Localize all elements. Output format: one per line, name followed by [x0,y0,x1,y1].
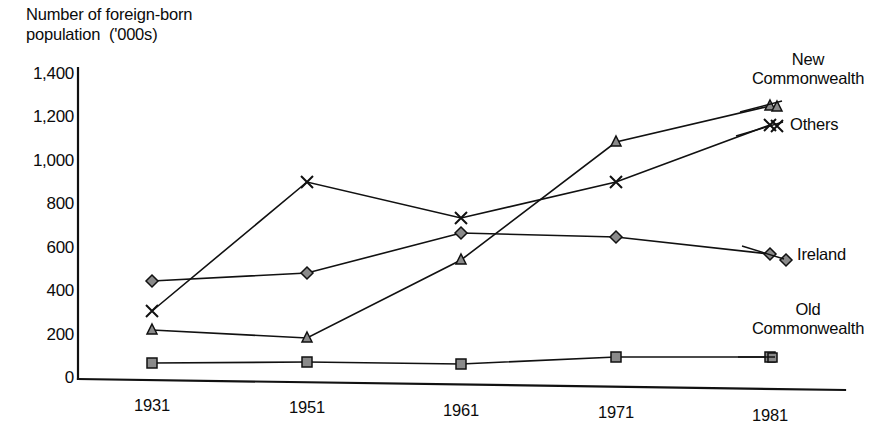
marker-x [771,120,783,132]
marker-diamond [610,231,622,243]
marker-diamond [146,275,158,287]
marker-triangle [147,324,157,334]
chart-container: Number of foreign-bornpopulation ('000s)… [0,0,886,434]
marker-square [611,352,621,362]
marker-diamond [301,267,313,279]
marker-diamond [780,254,792,266]
marker-x [455,212,467,224]
chart-plot-area [0,0,886,434]
marker-square [456,359,466,369]
leader-line-ireland [742,246,784,259]
x-axis-line [78,379,845,390]
marker-square [302,357,312,367]
series-line-new-commonwealth [152,106,770,338]
markers-old-commonwealth [147,352,777,369]
marker-x [146,305,158,317]
leader-line-others [736,122,783,136]
marker-triangle [456,254,466,264]
marker-x [610,176,622,188]
marker-x [301,176,313,188]
marker-diamond [455,227,467,239]
marker-square [147,358,157,368]
